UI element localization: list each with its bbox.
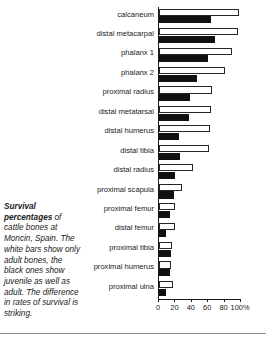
bar-row: distal metacarpal: [158, 26, 242, 45]
x-tick: [158, 299, 159, 302]
bar-juvenile-and-adult: [159, 114, 189, 121]
category-label: proximal radius: [103, 87, 155, 96]
bar-row: distal tibia: [158, 143, 242, 162]
bar-row: phalanx 2: [158, 65, 242, 84]
bar-juvenile-and-adult: [159, 36, 215, 43]
bar-chart: calcaneumdistal metacarpalphalanx 1phala…: [86, 4, 262, 319]
bar-adult-only: [159, 125, 210, 132]
bar-row: proximal radius: [158, 85, 242, 104]
bar-adult-only: [159, 203, 175, 210]
x-tick: [224, 299, 225, 302]
category-label: proximal femur: [104, 204, 154, 213]
x-axis-line: [158, 299, 241, 300]
x-tick-label: 80: [219, 303, 227, 312]
bar-row: proximal tibia: [158, 240, 242, 259]
bar-adult-only: [159, 48, 232, 55]
category-label: calcaneum: [117, 10, 154, 19]
x-tick: [191, 299, 192, 302]
bar-row: proximal humerus: [158, 260, 242, 279]
bar-adult-only: [159, 261, 171, 268]
bar-juvenile-and-adult: [159, 230, 166, 237]
bar-adult-only: [159, 164, 193, 171]
bar-adult-only: [159, 28, 238, 35]
category-label: proximal humerus: [94, 262, 154, 271]
bar-juvenile-and-adult: [159, 289, 166, 296]
figure: Survival percentages of cattle bones at …: [0, 0, 266, 342]
bottom-divider: [0, 333, 266, 334]
caption-lead: Survival percentages: [4, 202, 52, 222]
bar-adult-only: [159, 9, 239, 16]
bar-adult-only: [159, 67, 225, 74]
category-label: proximal ulna: [109, 282, 154, 291]
bar-adult-only: [159, 184, 182, 191]
x-tick-label: 60: [203, 303, 211, 312]
bar-adult-only: [159, 223, 175, 230]
bar-row: phalanx 1: [158, 46, 242, 65]
category-label: distal humerus: [105, 126, 154, 135]
bar-juvenile-and-adult: [159, 211, 170, 218]
bar-row: proximal femur: [158, 202, 242, 221]
x-tick: [207, 299, 208, 302]
x-tick-label: 100%: [231, 303, 250, 312]
category-label: distal femur: [115, 223, 154, 232]
bar-juvenile-and-adult: [159, 55, 208, 62]
category-label: phalanx 1: [121, 48, 154, 57]
category-label: proximal tibia: [109, 243, 154, 252]
x-tick-label: 40: [187, 303, 195, 312]
x-tick: [174, 299, 175, 302]
bar-row: calcaneum: [158, 7, 242, 26]
bar-adult-only: [159, 242, 172, 249]
caption-rest: of cattle bones at Moncin, Spain. The wh…: [4, 213, 80, 318]
category-label: proximal scapula: [97, 185, 154, 194]
category-label: distal metatarsal: [99, 107, 154, 116]
category-label: distal metacarpal: [97, 29, 154, 38]
bar-adult-only: [159, 106, 211, 113]
bar-adult-only: [159, 86, 212, 93]
bar-juvenile-and-adult: [159, 16, 211, 23]
category-label: distal radius: [113, 165, 154, 174]
bar-row: distal radius: [158, 163, 242, 182]
bar-juvenile-and-adult: [159, 75, 197, 82]
bar-juvenile-and-adult: [159, 94, 190, 101]
bar-juvenile-and-adult: [159, 133, 179, 140]
category-label: phalanx 2: [121, 68, 154, 77]
x-tick: [240, 299, 241, 302]
bar-row: proximal scapula: [158, 182, 242, 201]
bar-row: proximal ulna: [158, 279, 242, 298]
bar-row: distal humerus: [158, 124, 242, 143]
plot-area: calcaneumdistal metacarpalphalanx 1phala…: [158, 7, 242, 299]
figure-caption: Survival percentages of cattle bones at …: [4, 202, 82, 320]
category-label: distal tibia: [120, 146, 154, 155]
bar-juvenile-and-adult: [159, 153, 180, 160]
bar-row: distal femur: [158, 221, 242, 240]
bar-juvenile-and-adult: [159, 172, 175, 179]
bar-juvenile-and-adult: [159, 250, 171, 257]
x-tick-label: 20: [170, 303, 178, 312]
bar-row: distal metatarsal: [158, 104, 242, 123]
x-tick-label: 0: [156, 303, 160, 312]
bar-adult-only: [159, 145, 209, 152]
bar-juvenile-and-adult: [159, 191, 174, 198]
bar-juvenile-and-adult: [159, 269, 170, 276]
bar-rows: calcaneumdistal metacarpalphalanx 1phala…: [158, 7, 242, 299]
bar-adult-only: [159, 281, 173, 288]
